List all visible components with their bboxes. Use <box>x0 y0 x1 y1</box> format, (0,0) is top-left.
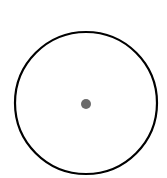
diagram-canvas <box>0 0 167 178</box>
center-point <box>81 99 91 109</box>
